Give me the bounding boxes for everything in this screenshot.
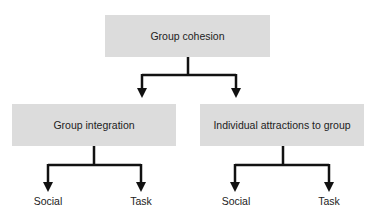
leaf-attractions-task: Task	[318, 195, 340, 207]
root-connector	[142, 57, 236, 75]
leaf-integration-social: Social	[34, 195, 63, 207]
leaf-integration-task: Task	[130, 195, 152, 207]
connector-lines	[0, 0, 369, 221]
integration-connector	[48, 146, 141, 165]
leaf-attractions-social: Social	[222, 195, 251, 207]
attractions-connector	[235, 146, 329, 165]
